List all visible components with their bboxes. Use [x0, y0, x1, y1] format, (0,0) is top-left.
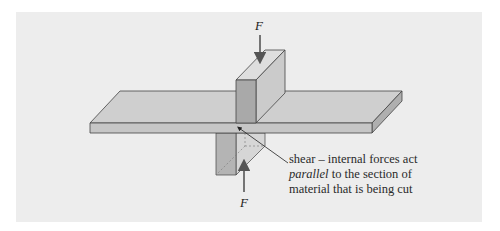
caption-line-2: parallel to the section of	[289, 167, 489, 182]
bottom-force-label: F	[239, 195, 249, 210]
caption-line-3: material that is being cut	[289, 182, 489, 197]
caption-line-2-rest: to the section of	[329, 167, 412, 181]
caption-line-1: shear – internal forces act	[289, 152, 489, 167]
lower-block	[216, 133, 265, 175]
caption-parallel-emphasis: parallel	[289, 167, 329, 181]
top-force-label: F	[254, 18, 264, 33]
shear-caption: shear – internal forces act parallel to …	[289, 152, 489, 197]
